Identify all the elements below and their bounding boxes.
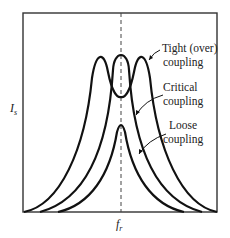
tight-label-line1: Tight (over): [162, 42, 218, 55]
y-axis-label: Is: [9, 101, 17, 117]
critical-pointer-arrow: [136, 95, 163, 115]
tight-pointer-arrow: [149, 50, 160, 60]
x-axis-label: fr: [116, 217, 123, 233]
critical-label-line2: coupling: [163, 95, 203, 108]
coupling-resonance-diagram: Tight (over) coupling Critical coupling …: [0, 0, 230, 238]
loose-label-line1: Loose: [169, 119, 197, 131]
tight-label-line2: coupling: [163, 56, 203, 69]
critical-label-line1: Critical: [163, 81, 198, 93]
loose-label-line2: coupling: [163, 133, 203, 146]
